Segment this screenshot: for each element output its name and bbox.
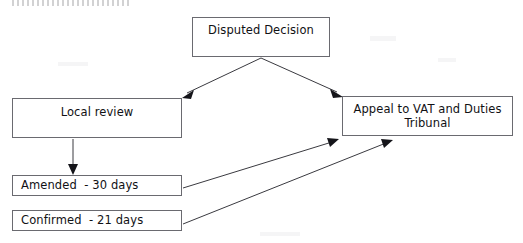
node-local-review-label: Local review <box>61 105 134 119</box>
node-confirmed-label: Confirmed - 21 days <box>21 213 143 227</box>
clipped-text-artefact <box>12 0 130 6</box>
node-local-review[interactable]: Local review <box>12 98 182 138</box>
node-appeal-tribunal-label: Appeal to VAT and Duties Tribunal <box>353 102 501 131</box>
node-disputed-decision-label: Disputed Decision <box>208 23 314 37</box>
scan-speck <box>370 36 396 41</box>
edge-decision-to-local-review <box>187 58 261 93</box>
edge-confirmed-to-tribunal <box>183 143 386 224</box>
node-confirmed[interactable]: Confirmed - 21 days <box>12 210 182 231</box>
scan-speck <box>260 232 300 236</box>
edge-amended-to-tribunal <box>183 142 332 188</box>
node-disputed-decision[interactable]: Disputed Decision <box>192 17 330 57</box>
scan-speck <box>58 62 88 66</box>
node-amended[interactable]: Amended - 30 days <box>12 175 182 196</box>
node-amended-label: Amended - 30 days <box>21 178 138 192</box>
arrowhead-amended-to-tribunal <box>327 138 339 147</box>
arrowhead-local-review-to-amended <box>68 164 78 175</box>
arrowhead-confirmed-to-tribunal <box>381 139 393 148</box>
scan-speck <box>438 58 456 62</box>
edge-decision-to-tribunal <box>261 58 337 92</box>
flowchart-canvas: Disputed Decision Local review Appeal to… <box>0 0 523 243</box>
node-appeal-tribunal[interactable]: Appeal to VAT and Duties Tribunal <box>342 96 513 136</box>
arrowhead-decision-to-local-review <box>182 90 194 99</box>
